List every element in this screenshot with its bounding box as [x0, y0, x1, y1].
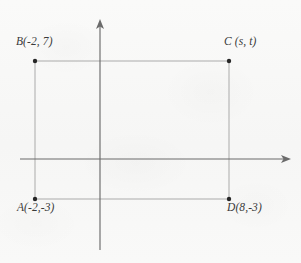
point-label-a: A(-2,-3)	[17, 201, 55, 213]
point-label-c: C (s, t)	[224, 35, 256, 47]
point-label-b: B(-2, 7)	[16, 35, 53, 47]
coordinate-plane-figure: B(-2, 7) C (s, t) A(-2,-3) D(8,-3)	[0, 0, 301, 263]
point-label-d: D(8,-3)	[227, 201, 262, 213]
point-B	[33, 59, 37, 63]
point-C	[227, 59, 231, 63]
